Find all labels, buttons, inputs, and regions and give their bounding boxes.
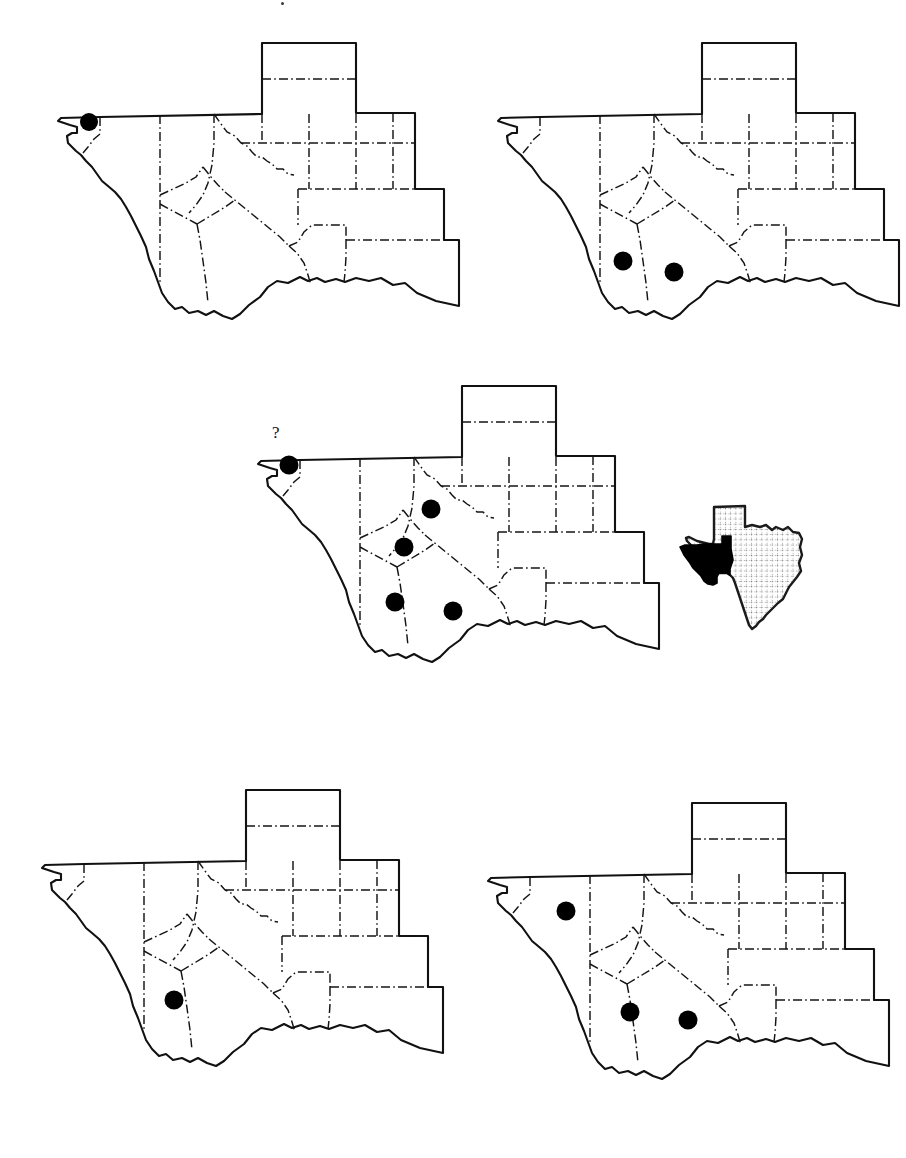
map-bottom-left-svg	[20, 782, 410, 1072]
map-bottom-right-svg	[466, 795, 856, 1085]
map-top-right-svg	[476, 35, 866, 325]
region-outline	[258, 386, 659, 662]
map-bottom-right	[466, 795, 856, 1085]
map-top-right	[476, 35, 866, 325]
locality-dot	[386, 593, 405, 612]
region-outline	[488, 803, 889, 1079]
map-middle: ?	[236, 378, 626, 668]
map-top-left-svg	[36, 35, 426, 325]
locality-dot	[165, 991, 184, 1010]
locality-dot	[80, 113, 98, 131]
texas-state-inset	[673, 503, 813, 639]
locality-dot	[422, 500, 441, 519]
locality-dot	[444, 602, 463, 621]
region-outline	[58, 43, 459, 319]
locality-dot	[679, 1011, 698, 1030]
texas-state-inset-svg	[673, 503, 813, 639]
locality-dot	[280, 456, 299, 475]
uncertain-record-marker: ?	[272, 424, 280, 441]
map-top-left	[36, 35, 426, 325]
locality-dot	[621, 1003, 640, 1022]
figure-plate: ?	[0, 0, 906, 1158]
map-middle-svg	[236, 378, 626, 668]
map-bottom-left	[20, 782, 410, 1072]
locality-dot	[395, 538, 414, 557]
region-outline	[42, 790, 443, 1066]
locality-dot	[665, 263, 684, 282]
region-outline	[498, 43, 899, 319]
locality-dot	[557, 902, 576, 921]
locality-dot	[614, 252, 633, 271]
scan-speck	[281, 2, 284, 5]
